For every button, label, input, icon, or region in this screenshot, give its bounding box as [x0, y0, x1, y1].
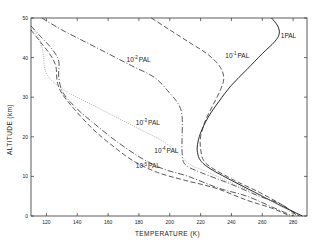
x-axis-title: TEMPERATURE (K): [135, 230, 200, 238]
curve-labels: 1PAL10-1PAL10-2PAL10-3PAL10-4PAL10-5PAL: [127, 32, 297, 170]
curve-5: [31, 30, 290, 216]
x-tick-label: 180: [135, 219, 144, 225]
curve-label: 10-5PAL: [136, 162, 160, 170]
y-tick-label: 10: [22, 173, 28, 179]
plot-frame: [31, 18, 307, 216]
curve-label: 10-4PAL: [154, 146, 178, 154]
x-tick-label: 260: [258, 219, 267, 225]
x-tick-label: 280: [289, 219, 298, 225]
curve-3: [31, 26, 296, 216]
y-tick-label: 40: [22, 55, 28, 61]
y-tick-label: 0: [25, 213, 28, 219]
x-tick-label: 240: [227, 219, 236, 225]
curve-2: [42, 18, 298, 216]
curve-label: 10-3PAL: [136, 118, 160, 126]
temperature-profiles: [31, 18, 302, 216]
curve-label: 1PAL: [281, 32, 297, 39]
y-axis-title: ALTITUDE (km): [6, 104, 14, 155]
x-axis-ticks: 120140160180200220240260280: [42, 18, 297, 225]
x-tick-label: 120: [42, 219, 51, 225]
x-tick-label: 200: [166, 219, 175, 225]
curve-label: 10-1PAL: [225, 51, 249, 59]
y-axis-ticks: 01020304050: [22, 15, 307, 219]
y-tick-label: 30: [22, 94, 28, 100]
x-tick-label: 160: [104, 219, 113, 225]
plot-border: [31, 18, 307, 216]
x-tick-label: 140: [73, 219, 82, 225]
y-tick-label: 50: [22, 15, 28, 21]
curve-4: [31, 26, 293, 216]
y-tick-label: 20: [22, 134, 28, 140]
curve-label: 10-2PAL: [127, 55, 151, 63]
curve-1: [151, 18, 299, 216]
altitude-temperature-chart: 120140160180200220240260280 01020304050 …: [0, 0, 321, 243]
x-tick-label: 220: [196, 219, 205, 225]
